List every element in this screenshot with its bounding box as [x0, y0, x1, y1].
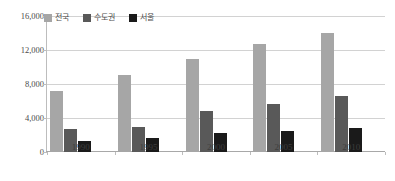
- legend-label: 전국: [55, 14, 69, 22]
- y-axis-tick: [43, 50, 47, 51]
- bar-chart: 04,0008,00012,00016,000 1990199520002005…: [0, 0, 395, 181]
- x-axis-label: 1995: [115, 142, 183, 152]
- y-axis-tick: [43, 118, 47, 119]
- legend-item[interactable]: 전국: [44, 14, 69, 22]
- bar: [253, 44, 266, 152]
- clipped-caption: [0, 0, 395, 6]
- bar-group: [253, 16, 294, 152]
- y-axis-tick: [43, 84, 47, 85]
- x-axis-separator: [317, 152, 318, 155]
- bar-group: [186, 16, 227, 152]
- bar: [118, 75, 131, 152]
- legend-item[interactable]: 서울: [129, 14, 154, 22]
- x-axis-label: 2000: [182, 142, 250, 152]
- x-axis-separator: [115, 152, 116, 155]
- x-axis-label: 2010: [317, 142, 385, 152]
- y-axis-label: 16,000: [21, 12, 44, 21]
- chart-legend: 전국수도권서울: [44, 14, 154, 22]
- bar-group: [118, 16, 159, 152]
- legend-swatch-icon: [129, 14, 137, 22]
- x-axis-separator: [47, 152, 48, 155]
- x-axis-label: 1990: [47, 142, 115, 152]
- x-axis-separator: [250, 152, 251, 155]
- legend-swatch-icon: [83, 14, 91, 22]
- legend-item[interactable]: 수도권: [83, 14, 115, 22]
- bar-group: [50, 16, 91, 152]
- x-axis-label: 2005: [250, 142, 318, 152]
- bar-group: [321, 16, 362, 152]
- legend-label: 수도권: [94, 14, 115, 22]
- legend-swatch-icon: [44, 14, 52, 22]
- x-axis-separator: [385, 152, 386, 155]
- y-axis-label: 8,000: [25, 80, 44, 89]
- y-axis-label: 4,000: [25, 114, 44, 123]
- y-axis-label: 12,000: [21, 46, 44, 55]
- bar: [186, 59, 199, 153]
- bar: [321, 33, 334, 152]
- plot-area: [47, 16, 385, 152]
- legend-label: 서울: [140, 14, 154, 22]
- x-axis-separator: [182, 152, 183, 155]
